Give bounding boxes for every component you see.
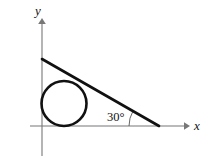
figure-canvas: y x 30° [0, 0, 205, 158]
x-axis-label: x [193, 118, 200, 133]
y-axis-arrowhead [38, 18, 46, 24]
geometry-figure: y x 30° [0, 0, 205, 158]
angle-arc [129, 111, 133, 126]
tangent-line [42, 59, 159, 126]
angle-label: 30° [107, 110, 125, 124]
tangent-circle [42, 81, 87, 126]
y-axis-label: y [33, 3, 41, 18]
x-axis-arrowhead [184, 122, 190, 130]
